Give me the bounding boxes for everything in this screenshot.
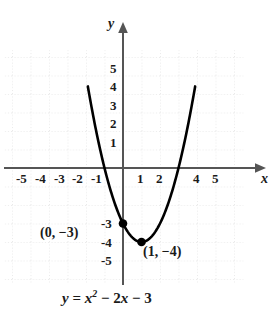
parabola-graph-figure: y x -5 -4 -3 -2 -1 1 2 4 5 5 4 3 2 1 -3 … bbox=[0, 0, 272, 311]
equation-equals: = bbox=[72, 290, 81, 306]
equation-caption: y = x2 − 2x − 3 bbox=[62, 288, 152, 307]
point-y-intercept bbox=[119, 219, 128, 228]
x-tick--5: -5 bbox=[16, 172, 27, 185]
y-axis-label: y bbox=[108, 17, 114, 31]
x-tick--1: -1 bbox=[91, 172, 102, 185]
x-tick--3: -3 bbox=[54, 172, 65, 185]
y-tick-5: 5 bbox=[110, 62, 117, 75]
equation-lhs: y bbox=[62, 290, 69, 306]
x-tick--4: -4 bbox=[35, 172, 46, 185]
graph-canvas bbox=[0, 0, 272, 311]
x-axis-label: x bbox=[261, 172, 268, 186]
y-tick--5: -5 bbox=[101, 254, 112, 267]
x-tick--2: -2 bbox=[72, 172, 83, 185]
equation-exponent: 2 bbox=[92, 288, 97, 299]
vertex-point-label: (1, −4) bbox=[143, 245, 181, 259]
x-tick-2: 2 bbox=[156, 172, 163, 185]
y-tick-2: 2 bbox=[110, 117, 117, 130]
x-tick-4: 4 bbox=[193, 172, 200, 185]
y-intercept-point-label: (0, −3) bbox=[40, 226, 78, 240]
y-tick-3: 3 bbox=[110, 99, 117, 112]
equation-term3: − 3 bbox=[132, 290, 152, 306]
y-tick-1: 1 bbox=[110, 136, 117, 149]
equation-term2: − 2 bbox=[101, 290, 121, 306]
x-tick-1: 1 bbox=[137, 172, 144, 185]
y-tick-4: 4 bbox=[110, 80, 117, 93]
x-tick-5: 5 bbox=[212, 172, 219, 185]
equation-var2: x bbox=[121, 290, 129, 306]
y-tick--3: -3 bbox=[101, 217, 112, 230]
y-tick--4: -4 bbox=[101, 236, 112, 249]
